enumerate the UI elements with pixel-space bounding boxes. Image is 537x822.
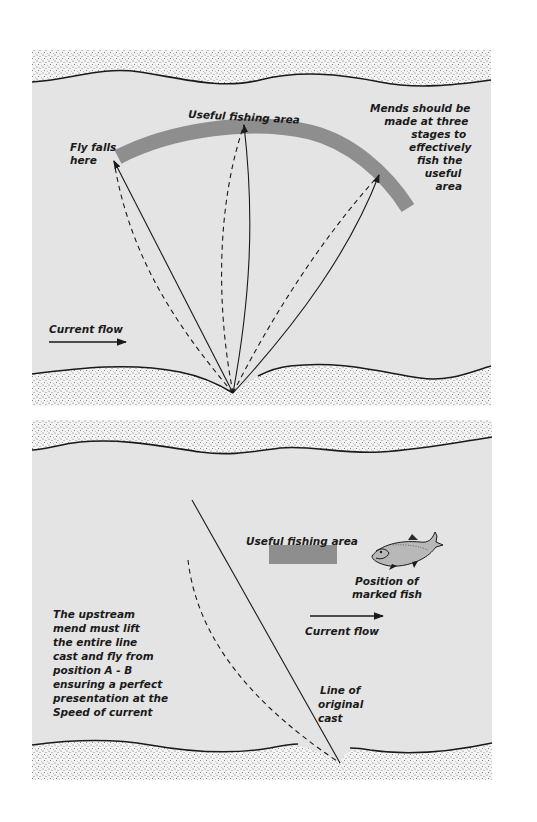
water-area <box>32 420 492 780</box>
useful-fishing-area-box <box>269 545 337 564</box>
fish-position-label: Position of marked fish <box>352 575 422 600</box>
useful-fishing-area-label: Useful fishing area <box>246 535 358 547</box>
bottom-panel: Useful fishing area Position of marked f… <box>32 420 492 780</box>
current-flow-label: Current flow <box>305 625 379 637</box>
fishing-mend-diagram: Useful fishing area Fly falls here Mends… <box>0 0 537 822</box>
current-flow-label: Current flow <box>49 323 123 335</box>
top-panel: Useful fishing area Fly falls here Mends… <box>32 50 491 406</box>
